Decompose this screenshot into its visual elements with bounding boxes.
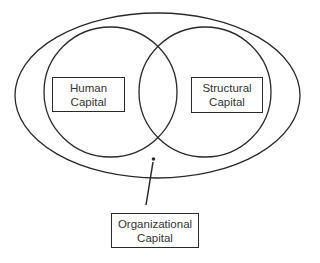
structural-capital-line1: Structural <box>202 81 251 95</box>
callout-arrow <box>146 162 153 205</box>
human-capital-line2: Capital <box>71 95 107 109</box>
structural-capital-line2: Capital <box>209 95 245 109</box>
organizational-capital-line2: Capital <box>137 231 173 245</box>
human-capital-line1: Human <box>70 81 107 95</box>
arrow-head-icon <box>152 157 156 161</box>
human-capital-label-box: Human Capital <box>52 77 125 112</box>
structural-capital-label-box: Structural Capital <box>191 77 263 113</box>
organizational-capital-label-box: Organizational Capital <box>111 213 199 248</box>
organizational-capital-line1: Organizational <box>118 217 192 231</box>
